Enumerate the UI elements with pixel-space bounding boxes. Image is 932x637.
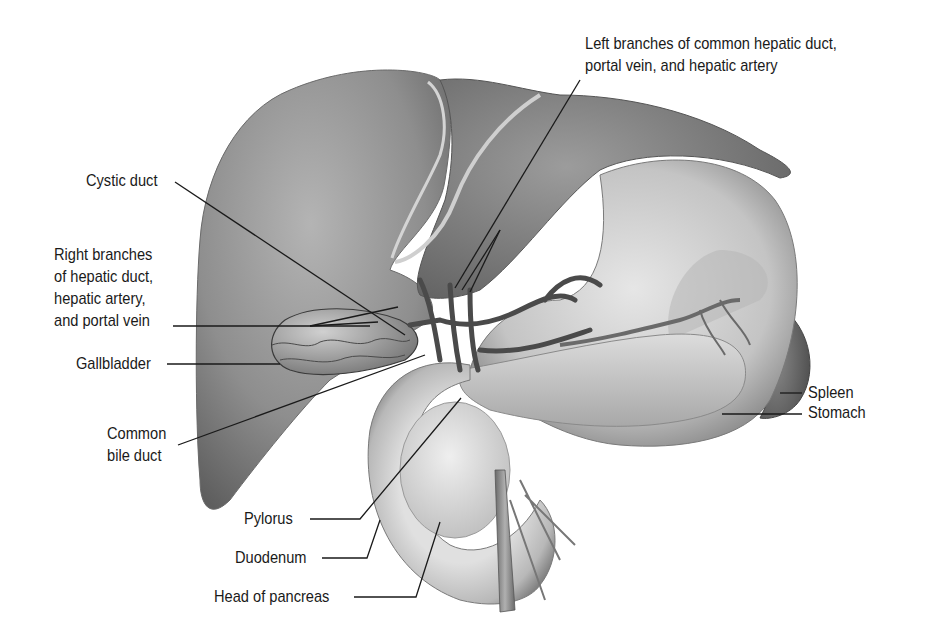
label-duodenum: Duodenum — [235, 547, 307, 569]
label-right-branches: Right branches of hepatic duct, hepatic … — [54, 244, 153, 332]
label-line: of hepatic duct, — [54, 266, 153, 288]
anatomy-figure: Left branches of common hepatic duct, po… — [0, 0, 932, 637]
label-line: Left branches of common hepatic duct, — [585, 33, 837, 55]
label-line: and portal vein — [54, 310, 153, 332]
label-line: portal vein, and hepatic artery — [585, 55, 837, 77]
label-left-branches: Left branches of common hepatic duct, po… — [585, 33, 837, 77]
label-stomach: Stomach — [808, 402, 866, 424]
label-spleen: Spleen — [808, 382, 854, 404]
label-gallbladder: Gallbladder — [76, 353, 151, 375]
leader-duodenum — [322, 520, 380, 558]
label-line: bile duct — [107, 445, 166, 467]
label-line: Right branches — [54, 244, 153, 266]
label-pylorus: Pylorus — [244, 508, 293, 530]
label-line: hepatic artery, — [54, 288, 153, 310]
label-common-bile-duct: Common bile duct — [107, 423, 166, 467]
head-of-pancreas — [400, 402, 510, 538]
label-head-of-pancreas: Head of pancreas — [214, 586, 329, 608]
label-line: Common — [107, 423, 166, 445]
label-cystic-duct: Cystic duct — [86, 170, 158, 192]
